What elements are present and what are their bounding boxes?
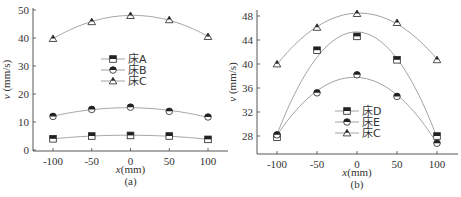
y-tick-label: 50 bbox=[18, 4, 30, 16]
x-tick-label: 100 bbox=[429, 158, 446, 170]
data-point-triangle bbox=[49, 35, 57, 42]
data-point-square bbox=[127, 132, 134, 139]
data-point-circle bbox=[127, 104, 134, 111]
legend-marker-circle bbox=[110, 67, 117, 74]
legend-marker-square bbox=[110, 56, 117, 63]
data-point-circle bbox=[274, 132, 281, 139]
chart-panel-b: 283236404448-100-50050100x(mm)(b)v (mm/s… bbox=[226, 10, 458, 191]
y-tick-label: 40 bbox=[242, 58, 254, 70]
panel-caption: (a) bbox=[124, 175, 137, 188]
data-point-square bbox=[88, 133, 95, 140]
y-tick-label: 20 bbox=[18, 88, 30, 100]
panel-caption: (b) bbox=[351, 178, 364, 191]
data-point-triangle bbox=[204, 33, 212, 40]
data-point-square bbox=[50, 136, 57, 143]
y-tick-label: 48 bbox=[242, 10, 254, 22]
data-point-square bbox=[394, 57, 401, 64]
data-point-circle bbox=[434, 140, 441, 147]
legend-label: 床C bbox=[128, 74, 147, 88]
y-tick-label: 30 bbox=[18, 60, 30, 72]
legend-marker-circle bbox=[344, 119, 351, 126]
data-point-circle bbox=[50, 113, 57, 120]
y-tick-label: 32 bbox=[242, 106, 253, 118]
x-tick-label: 50 bbox=[164, 155, 176, 167]
series-curve bbox=[277, 32, 437, 137]
data-point-square bbox=[205, 136, 212, 143]
y-axis-label: v (mm/s) bbox=[0, 59, 13, 99]
data-point-square bbox=[354, 33, 361, 40]
data-point-circle bbox=[88, 106, 95, 113]
y-tick-label: 10 bbox=[18, 116, 30, 128]
figure: 01020304050-100-50050100x(mm)(a)v (mm/s)… bbox=[0, 0, 461, 197]
y-tick-label: 40 bbox=[18, 32, 30, 44]
data-point-circle bbox=[354, 72, 361, 79]
y-axis-label: v (mm/s) bbox=[226, 62, 239, 102]
data-point-circle bbox=[394, 93, 401, 100]
series-curve bbox=[277, 77, 437, 143]
x-tick-label: 100 bbox=[200, 155, 217, 167]
y-tick-label: 44 bbox=[242, 34, 254, 46]
y-tick-label: 0 bbox=[24, 144, 30, 156]
legend-label: 床C bbox=[362, 126, 381, 140]
data-point-circle bbox=[205, 114, 212, 121]
y-tick-label: 36 bbox=[242, 82, 254, 94]
data-point-square bbox=[314, 47, 321, 54]
data-point-circle bbox=[314, 90, 321, 97]
data-point-square bbox=[434, 133, 441, 140]
x-tick-label: -50 bbox=[84, 155, 99, 167]
x-tick-label: 50 bbox=[392, 158, 404, 170]
data-point-square bbox=[166, 133, 173, 140]
x-tick-label: -50 bbox=[310, 158, 325, 170]
chart-panel-a: 01020304050-100-50050100x(mm)(a)v (mm/s)… bbox=[0, 4, 228, 188]
y-tick-label: 28 bbox=[242, 130, 254, 142]
data-point-triangle bbox=[88, 18, 96, 25]
data-point-circle bbox=[166, 108, 173, 115]
x-tick-label: -100 bbox=[267, 158, 288, 170]
x-tick-label: -100 bbox=[43, 155, 64, 167]
data-point-triangle bbox=[433, 56, 441, 63]
legend-marker-square bbox=[344, 108, 351, 115]
